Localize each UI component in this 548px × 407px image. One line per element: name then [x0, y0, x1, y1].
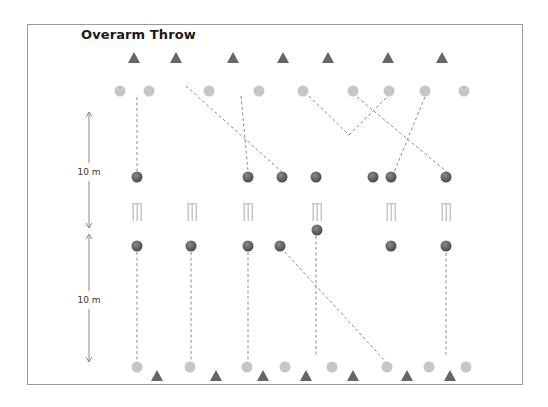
throw-paths [137, 86, 447, 362]
wicket-icon [441, 203, 451, 221]
player-marker-icon [280, 362, 291, 373]
cone-marker-icon [257, 370, 269, 381]
cone-marker-icon [300, 370, 312, 381]
player-marker-icon [185, 362, 196, 373]
cone-marker-icon [170, 52, 182, 63]
wicket-stump [252, 203, 254, 221]
wicket-icon [386, 203, 396, 221]
wicket-stump [446, 203, 448, 221]
wicket-stump [188, 203, 190, 221]
ball-icon [243, 241, 254, 252]
player-marker-icon [204, 86, 215, 97]
cone-marker-icon [227, 52, 239, 63]
throw-path-line [394, 97, 425, 172]
distance-label-lower: 10 m [77, 295, 100, 305]
player-marker-icon [382, 362, 393, 373]
wicket-icon [187, 203, 197, 221]
player-marker-icon [254, 86, 265, 97]
wicket-stump [395, 203, 397, 221]
wicket-stump [442, 203, 444, 221]
ball-icon [132, 172, 143, 183]
player-marker-icon [348, 86, 359, 97]
wicket-icon [243, 203, 253, 221]
ball-icon [311, 172, 322, 183]
cone-marker-icon [436, 52, 448, 63]
wicket-stump [313, 203, 315, 221]
ball-icon [368, 172, 379, 183]
ball-icon [441, 241, 452, 252]
cone-marker-icon [382, 52, 394, 63]
wicket-stump [248, 203, 250, 221]
cone-marker-icon [128, 52, 140, 63]
wicket-stump [391, 203, 393, 221]
ball-icon [275, 241, 286, 252]
wicket-stump [321, 203, 323, 221]
ball-icon [312, 225, 323, 236]
cone-marker-icon [444, 370, 456, 381]
throw-path-line [241, 96, 248, 171]
player-marker-icon [461, 362, 472, 373]
ball-icon [186, 241, 197, 252]
drill-diagram: 10 m 10 m [0, 0, 548, 407]
player-marker-icon [242, 362, 253, 373]
ball-icon [386, 172, 397, 183]
distance-label-upper: 10 m [77, 167, 100, 177]
distance-arrows [86, 112, 92, 362]
ball-icon [277, 172, 288, 183]
wicket-stump [317, 203, 319, 221]
cone-marker-icon [277, 52, 289, 63]
wicket-stump [133, 203, 135, 221]
cone-marker-icon [347, 370, 359, 381]
ball-icon [132, 241, 143, 252]
throw-path-line [309, 96, 349, 135]
player-marker-icon [115, 86, 126, 97]
player-marker-icon [420, 86, 431, 97]
throw-path-line [186, 86, 282, 172]
player-marker-icon [459, 86, 470, 97]
player-marker-icon [132, 362, 143, 373]
cone-marker-icon [151, 370, 163, 381]
wicket-stump [196, 203, 198, 221]
player-marker-icon [298, 86, 309, 97]
wicket-icon [132, 203, 142, 221]
cone-marker-icon [322, 52, 334, 63]
wicket-stump [192, 203, 194, 221]
player-marker-icon [384, 86, 395, 97]
drill-markers [115, 52, 472, 381]
cone-marker-icon [401, 370, 413, 381]
wicket-icon [312, 203, 322, 221]
wicket-stump [141, 203, 143, 221]
wicket-stump [244, 203, 246, 221]
player-marker-icon [424, 362, 435, 373]
cone-marker-icon [210, 370, 222, 381]
throw-path-line [349, 96, 388, 135]
ball-icon [243, 172, 254, 183]
wicket-stump [387, 203, 389, 221]
throw-path-line [285, 252, 386, 362]
wicket-stump [450, 203, 452, 221]
ball-icon [441, 172, 452, 183]
player-marker-icon [327, 362, 338, 373]
ball-icon [386, 241, 397, 252]
wicket-stump [137, 203, 139, 221]
player-marker-icon [144, 86, 155, 97]
throw-path-line [357, 97, 447, 172]
